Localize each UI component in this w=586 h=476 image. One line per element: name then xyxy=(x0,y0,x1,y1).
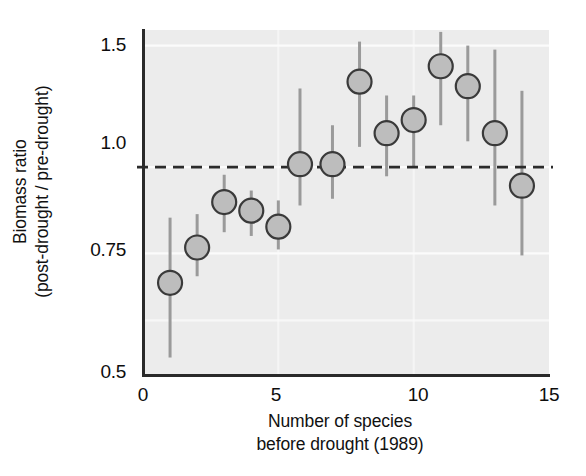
plot-background xyxy=(143,30,549,375)
data-point-11 xyxy=(429,54,453,78)
data-point-10 xyxy=(402,108,426,132)
x-axis-label: Number of species before drought (1989) xyxy=(130,410,550,456)
data-point-8 xyxy=(348,70,372,94)
x-axis-label-line-1: Number of species xyxy=(130,410,550,433)
data-point-14 xyxy=(510,174,534,198)
y-axis-label-line-2: (post-drought / pre-drought) xyxy=(32,42,54,342)
data-point-4 xyxy=(239,199,263,223)
x-tick-label-10: 10 xyxy=(396,384,440,406)
x-axis-label-line-2: before drought (1989) xyxy=(130,433,550,456)
data-point-6 xyxy=(288,152,312,176)
x-tick-label-0: 0 xyxy=(123,384,163,406)
data-point-3 xyxy=(212,190,236,214)
y-axis-label-line-1: Biomass ratio xyxy=(10,42,32,342)
x-tick-label-5: 5 xyxy=(256,384,296,406)
y-tick-label-1-5: 1.5 xyxy=(76,34,126,56)
data-point-12 xyxy=(456,74,480,98)
data-point-1 xyxy=(158,271,182,295)
data-point-9 xyxy=(375,121,399,145)
x-tick-label-15: 15 xyxy=(527,384,571,406)
y-tick-label-0-75: 0.75 xyxy=(64,239,126,261)
figure-container: Biomass ratio (post-drought / pre-drough… xyxy=(0,0,586,476)
data-point-2 xyxy=(185,235,209,259)
y-tick-label-1-0: 1.0 xyxy=(76,132,126,154)
data-point-13 xyxy=(483,121,507,145)
data-point-7 xyxy=(320,152,344,176)
y-axis-label: Biomass ratio (post-drought / pre-drough… xyxy=(10,42,53,342)
y-tick-label-0-5: 0.5 xyxy=(76,361,126,383)
data-point-5 xyxy=(266,215,290,239)
